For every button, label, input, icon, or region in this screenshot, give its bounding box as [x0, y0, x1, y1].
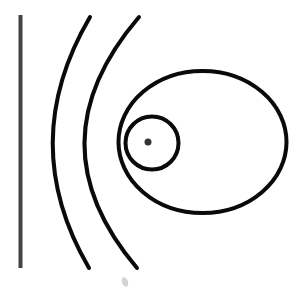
large-ellipse	[119, 71, 287, 213]
smudge-mark	[120, 276, 129, 287]
outer-arc-2	[84, 17, 139, 268]
center-dot	[145, 139, 152, 146]
diagram-canvas	[0, 0, 306, 292]
inner-circle	[126, 117, 179, 170]
wave-diagram	[0, 0, 306, 292]
